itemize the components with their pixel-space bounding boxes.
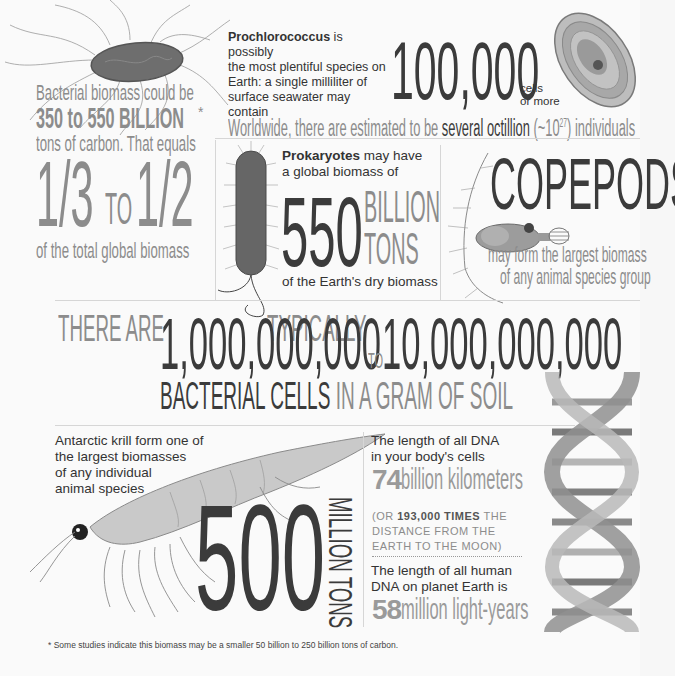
bacterial-biomass-panel: Bacterial biomass could be 350 to 550 BI… bbox=[36, 82, 206, 262]
soil-suffix: BACTERIAL CELLS IN A GRAM OF SOIL bbox=[160, 377, 513, 415]
prochlorococcus-cell-illustration bbox=[540, 5, 650, 125]
dna-body-number: 74 bbox=[372, 464, 401, 495]
divider-soil-top bbox=[55, 300, 640, 301]
octillion-emphasis: several octillion bbox=[442, 115, 530, 141]
bacterial-cells-emphasis: BACTERIAL CELLS bbox=[160, 375, 330, 417]
divider-middle-column bbox=[440, 145, 441, 300]
fraction-one-half: 1/2 bbox=[136, 148, 194, 240]
fraction-to: TO bbox=[105, 187, 132, 231]
prochlorococcus-description: Prochlorococcus is possibly the most ple… bbox=[228, 30, 388, 120]
krill-biomass-number: 500 bbox=[195, 488, 325, 628]
dna-body-unit: billion kilometers bbox=[401, 465, 523, 493]
prokaryotes-description: Prokaryotes may have a global biomass of bbox=[282, 148, 422, 180]
bacterial-biomass-line1: Bacterial biomass could be bbox=[36, 82, 194, 104]
footnote: * Some studies indicate this biomass may… bbox=[48, 640, 398, 650]
prochlorococcus-count: 100,000 bbox=[391, 30, 539, 112]
dna-human-length-text: The length of all human DNA on planet Ea… bbox=[371, 563, 512, 595]
soil-count-to: TO bbox=[368, 350, 383, 372]
asterisk-marker: * bbox=[198, 104, 203, 120]
soil-count-low: 1,000,000,000 bbox=[160, 308, 381, 380]
dna-helix-illustration bbox=[542, 372, 637, 632]
divider-left-column bbox=[215, 140, 216, 300]
divider-krill-dna bbox=[363, 432, 364, 627]
soil-count-high: 10,000,000,000 bbox=[382, 308, 622, 380]
bacterial-biomass-range: 350 to 550 BILLION bbox=[36, 104, 184, 132]
dna-human-number: 58 bbox=[372, 594, 401, 625]
infographic-page: Bacterial biomass could be 350 to 550 BI… bbox=[0, 0, 640, 676]
dna-body-length-text: The length of all DNA in your body's cel… bbox=[371, 433, 499, 465]
prokaryotes-name: Prokaryotes bbox=[282, 148, 360, 163]
copepods-description: may form the largest biomass of any anim… bbox=[488, 244, 675, 288]
copepods-title: COPEPODS bbox=[490, 148, 675, 220]
bacterial-biomass-line4: of the total global biomass bbox=[36, 240, 189, 262]
dna-moon-comparison: (OR 193,000 TIMES THE DISTANCE FROM THE … bbox=[372, 509, 507, 554]
dna-dotted-divider bbox=[372, 556, 522, 557]
prokaryotes-biomass-number: 550 bbox=[281, 183, 363, 281]
krill-biomass-unit: MILLION TONS bbox=[324, 497, 358, 628]
prokaryotes-footer: of the Earth's dry biomass bbox=[282, 274, 438, 289]
krill-description: Antarctic krill form one of the largest … bbox=[55, 433, 204, 497]
prochlorococcus-name: Prochlorococcus bbox=[228, 30, 330, 44]
divider-soil-bottom bbox=[55, 425, 575, 426]
fraction-one-third: 1/3 bbox=[36, 148, 94, 240]
moon-times-emphasis: 193,000 TIMES bbox=[397, 510, 480, 522]
divider-top-row bbox=[215, 138, 640, 139]
dna-human-unit: million light-years bbox=[401, 595, 528, 623]
